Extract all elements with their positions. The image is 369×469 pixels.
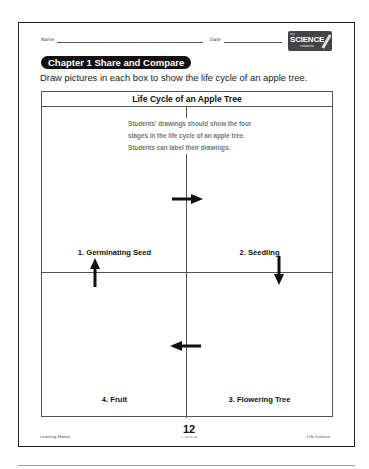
cell-label-germinating-seed: 1. Germinating Seed xyxy=(52,248,177,257)
bottom-rule xyxy=(18,465,355,466)
answer-note-line: Students' drawings should show the four xyxy=(128,118,278,130)
answer-note: Students' drawings should show the four … xyxy=(128,118,278,154)
worksheet-page: Name Date my SCIENCE notebook Chapter 1 … xyxy=(18,22,355,447)
cell-label-flowering-tree: 3. Flowering Tree xyxy=(197,395,322,404)
chapter-badge: Chapter 1 Share and Compare xyxy=(41,56,191,69)
footer-left: Learning Master xyxy=(40,434,71,439)
page-number: 12 xyxy=(179,423,199,435)
name-field-line[interactable] xyxy=(57,42,203,43)
date-field-line[interactable] xyxy=(224,42,282,43)
cell-label-fruit: 4. Fruit xyxy=(52,395,177,404)
footer-code: © HSP B-HB xyxy=(174,436,204,439)
logo-main-text: SCIENCE xyxy=(290,35,324,44)
cell-label-seedling: 2. Seedling xyxy=(197,248,322,257)
my-science-notebook-logo: my SCIENCE notebook xyxy=(288,31,332,51)
instructions: Draw pictures in each box to show the li… xyxy=(40,72,307,83)
answer-note-line: stages in the life cycle of an apple tre… xyxy=(128,130,278,142)
arrow-up-icon xyxy=(90,258,100,288)
life-cycle-grid: Life Cycle of an Apple Tree Students' dr… xyxy=(41,91,333,417)
arrow-right-icon xyxy=(172,194,204,204)
name-label: Name xyxy=(41,37,54,42)
horizontal-divider xyxy=(42,272,332,273)
logo-small-bottom: notebook xyxy=(300,44,314,48)
arrow-left-icon xyxy=(170,341,202,351)
date-label: Date xyxy=(210,37,221,42)
answer-note-line: Students can label their drawings. xyxy=(128,142,278,154)
footer-right: Life Science xyxy=(307,434,330,439)
arrow-down-icon xyxy=(274,256,284,286)
grid-title: Life Cycle of an Apple Tree xyxy=(42,92,332,107)
